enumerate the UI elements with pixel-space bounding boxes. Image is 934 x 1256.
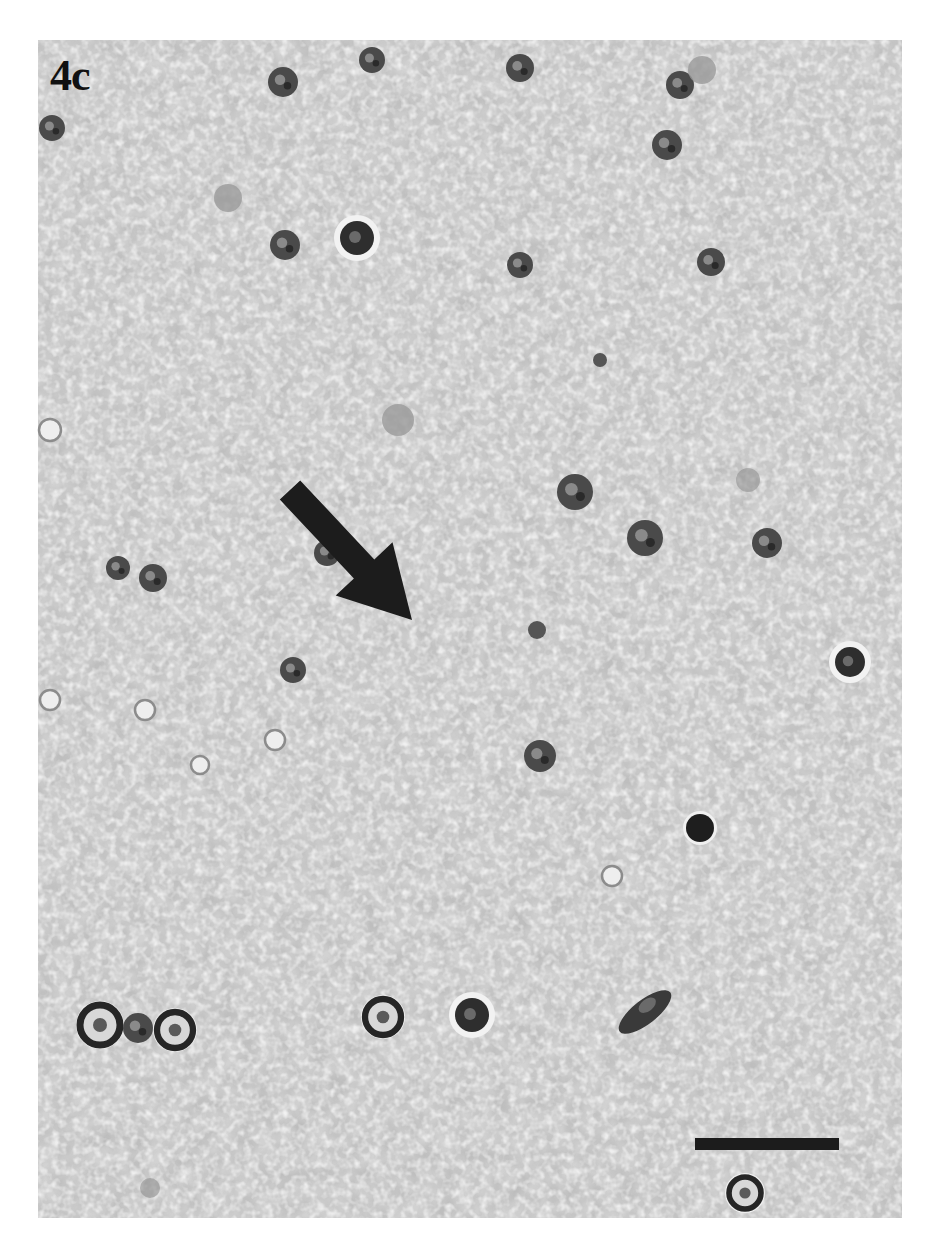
scale-bar: [695, 1138, 839, 1150]
arrow-icon: [0, 0, 934, 1256]
